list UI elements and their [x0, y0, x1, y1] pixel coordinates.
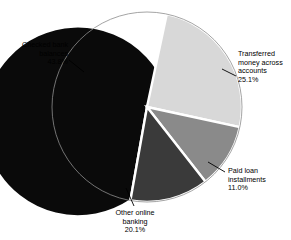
- pie-label-paid-loan: Paid loan installments 11.0%: [228, 167, 288, 193]
- pie-label-other-online-value: 20.1%: [104, 226, 166, 235]
- pie-label-checked-bank: Checked bank balances 43.8%: [2, 41, 68, 67]
- pie-label-transferred-value: 25.1%: [238, 76, 290, 85]
- pie-label-transferred: Transferred money across accounts 25.1%: [238, 50, 290, 84]
- pie-chart-canvas: [0, 0, 291, 240]
- pie-label-other-online: Other online banking 20.1%: [104, 209, 166, 235]
- pie-label-checked-bank-value: 43.8%: [2, 58, 68, 67]
- pie-chart-figure: Checked bank balances 43.8% Transferred …: [0, 0, 291, 240]
- pie-label-paid-loan-value: 11.0%: [228, 184, 288, 193]
